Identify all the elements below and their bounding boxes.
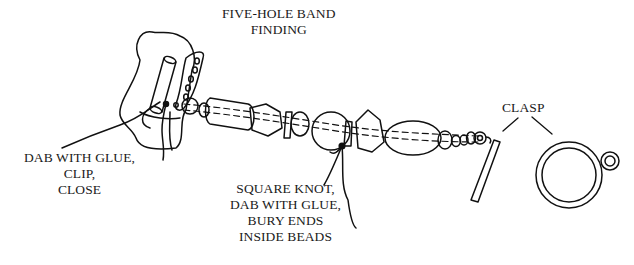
diagram-canvas: FIVE-HOLE BAND FINDING DAB WITH GLUE, CL… <box>0 0 634 265</box>
thread <box>184 104 478 142</box>
clasp-leader-lines <box>503 117 552 134</box>
band-hole-1 <box>195 58 200 64</box>
toggle-ring <box>536 142 619 208</box>
label-five-hole-band-finding: FIVE-HOLE BAND FINDING <box>222 6 336 38</box>
label-square-knot: SQUARE KNOT, DAB WITH GLUE, BURY ENDS IN… <box>230 181 341 245</box>
five-hole-band <box>176 52 204 110</box>
band-hole-4 <box>186 85 191 91</box>
bead-strand <box>182 98 486 155</box>
band-hole-2 <box>193 67 198 73</box>
label-dab-glue-clip-close: DAB WITH GLUE, CLIP, CLOSE <box>24 150 135 198</box>
toggle-bar <box>471 137 500 202</box>
label-clasp: CLASP <box>502 100 545 116</box>
clip-finding <box>120 32 194 149</box>
